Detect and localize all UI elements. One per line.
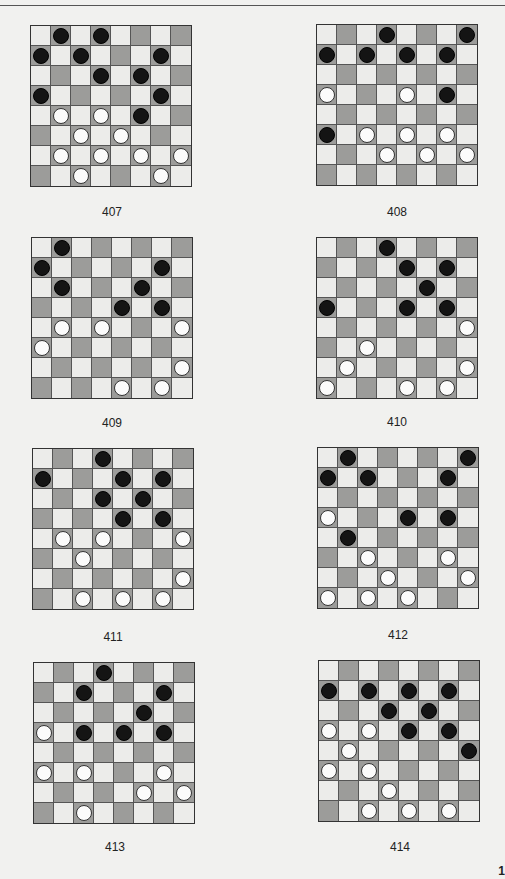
black-checker-piece <box>439 87 455 103</box>
board-square <box>94 783 114 803</box>
board-square <box>153 449 173 469</box>
board-square <box>397 358 417 378</box>
white-checker-piece <box>75 551 91 567</box>
board-square <box>457 145 477 165</box>
board-square <box>397 25 417 45</box>
board-square <box>74 663 94 683</box>
black-checker-piece <box>33 48 49 64</box>
board-square <box>33 469 53 489</box>
board-square <box>73 589 93 609</box>
board-square <box>52 338 72 358</box>
board-square <box>113 569 133 589</box>
board-square <box>154 663 174 683</box>
black-checker-piece <box>399 260 415 276</box>
board-square <box>172 298 192 318</box>
board-square <box>91 86 111 106</box>
board-square <box>92 338 112 358</box>
board-square <box>337 25 357 45</box>
board-square <box>398 508 418 528</box>
black-checker-piece <box>116 725 132 741</box>
board-square <box>72 278 92 298</box>
board-square <box>54 663 74 683</box>
board-square <box>73 449 93 469</box>
board-square <box>397 165 417 185</box>
board-square <box>437 338 457 358</box>
board-square <box>31 126 51 146</box>
board-square <box>172 258 192 278</box>
board-square <box>458 488 478 508</box>
board-square <box>54 723 74 743</box>
board-square <box>32 338 52 358</box>
board-square <box>111 66 131 86</box>
board-square <box>377 25 397 45</box>
board-square <box>52 358 72 378</box>
board-square <box>317 85 337 105</box>
board-square <box>377 125 397 145</box>
white-checker-piece <box>93 148 109 164</box>
board-square <box>337 65 357 85</box>
white-checker-piece <box>319 87 335 103</box>
board-square <box>438 448 458 468</box>
black-checker-piece <box>136 705 152 721</box>
black-checker-piece <box>381 703 397 719</box>
board-square <box>457 298 477 318</box>
board-square <box>317 338 337 358</box>
white-checker-piece <box>459 147 475 163</box>
board-square <box>71 166 91 186</box>
black-checker-piece <box>320 470 336 486</box>
white-checker-piece <box>459 320 475 336</box>
black-checker-piece <box>54 240 70 256</box>
board-square <box>338 508 358 528</box>
board-square <box>377 145 397 165</box>
board-square <box>399 681 419 701</box>
white-checker-piece <box>361 723 377 739</box>
board-square <box>317 125 337 145</box>
board-square <box>72 238 92 258</box>
board-square <box>94 723 114 743</box>
board-square <box>92 238 112 258</box>
board-square <box>319 721 339 741</box>
white-checker-piece <box>439 127 455 143</box>
board-square <box>439 661 459 681</box>
black-checker-piece <box>155 471 171 487</box>
board-square <box>114 803 134 823</box>
board-square <box>458 568 478 588</box>
top-rule <box>0 5 505 6</box>
black-checker-piece <box>441 683 457 699</box>
board-square <box>72 318 92 338</box>
black-checker-piece <box>439 47 455 63</box>
board-square <box>399 721 419 741</box>
board-square <box>399 761 419 781</box>
board-square <box>379 801 399 821</box>
white-checker-piece <box>94 320 110 336</box>
board-square <box>417 105 437 125</box>
board-square <box>357 358 377 378</box>
black-checker-piece <box>399 300 415 316</box>
board-square <box>417 45 437 65</box>
board-square <box>377 298 397 318</box>
black-checker-piece <box>154 260 170 276</box>
board-square <box>318 508 338 528</box>
board-square <box>417 378 437 398</box>
board-square <box>131 166 151 186</box>
board-square <box>134 783 154 803</box>
board-square <box>74 683 94 703</box>
board-square <box>171 46 191 66</box>
board-square <box>134 723 154 743</box>
board-square <box>359 681 379 701</box>
board-square <box>318 528 338 548</box>
board-square <box>112 358 132 378</box>
board-square <box>31 46 51 66</box>
board-square <box>319 781 339 801</box>
black-checker-piece <box>421 703 437 719</box>
board-square <box>317 165 337 185</box>
black-checker-piece <box>93 68 109 84</box>
board-square <box>378 468 398 488</box>
board-square <box>92 278 112 298</box>
board-square <box>71 26 91 46</box>
checkers-board-409 <box>31 237 193 399</box>
board-square <box>357 238 377 258</box>
board-square <box>397 278 417 298</box>
black-checker-piece <box>53 28 69 44</box>
black-checker-piece <box>321 683 337 699</box>
